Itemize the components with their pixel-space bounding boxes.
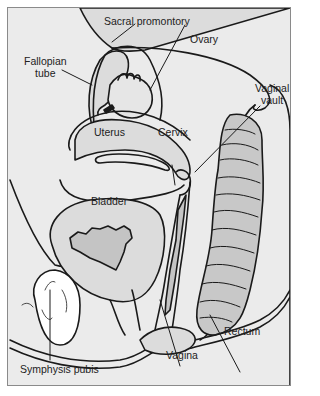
label-rectum: Rectum xyxy=(224,325,260,337)
label-ovary: Ovary xyxy=(190,33,218,45)
label-symphysis-pubis: Symphysis pubis xyxy=(20,363,99,375)
label-fallopian-tube: Fallopian tube xyxy=(24,55,67,79)
rectal-sheath xyxy=(270,85,290,385)
label-uterus: Uterus xyxy=(94,126,125,138)
symphysis-pubis xyxy=(34,270,80,345)
label-vagina: Vagina xyxy=(166,349,198,361)
label-cervix: Cervix xyxy=(158,126,188,138)
label-sacral-promontory: Sacral promontory xyxy=(104,15,190,27)
label-bladder: Bladder xyxy=(91,195,127,207)
label-vaginal-vault: Vaginal vault xyxy=(255,82,289,106)
